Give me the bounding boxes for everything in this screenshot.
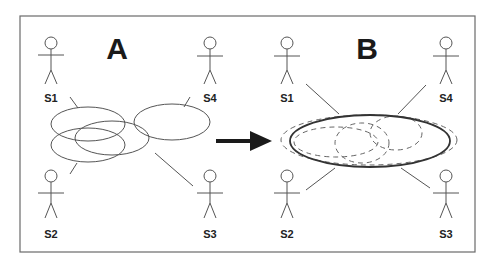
actor-label: S4	[203, 92, 217, 104]
actor-label: S3	[203, 228, 216, 240]
actor-label: S1	[44, 92, 57, 104]
actor-label: S2	[44, 228, 57, 240]
actor-label: S3	[439, 228, 452, 240]
actor-label: S4	[439, 92, 453, 104]
panel-b-label: B	[356, 32, 378, 65]
actor-label: S2	[280, 228, 293, 240]
diagram-frame	[20, 16, 475, 252]
panel-a-label: A	[106, 32, 128, 65]
diagram: A S1 S4	[0, 0, 494, 265]
actor-label: S1	[280, 92, 293, 104]
